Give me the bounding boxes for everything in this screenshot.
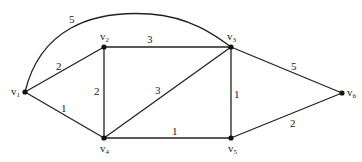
node-v2: [101, 44, 106, 49]
node-v4: [101, 135, 106, 140]
node-v3: [228, 44, 233, 49]
node-v5: [228, 135, 233, 140]
edge-v1-v3: [25, 14, 231, 92]
weight-v3-v5: 1: [234, 88, 240, 100]
weight-v1-v3: 5: [69, 13, 75, 25]
edge-v5-v6: [231, 93, 342, 138]
label-v3: v3: [227, 30, 237, 44]
weight-v1-v2: 2: [56, 60, 62, 72]
weight-v1-v4: 1: [61, 102, 67, 114]
weight-v5-v6: 2: [290, 117, 296, 129]
label-v2: v2: [100, 30, 110, 44]
edge-v1-v2: [25, 47, 104, 92]
node-v1: [22, 89, 27, 94]
weight-v4-v3: 3: [155, 84, 161, 96]
label-v5: v5: [228, 142, 238, 156]
label-v6: v6: [347, 86, 357, 100]
weight-v2-v3: 3: [147, 33, 153, 45]
weight-v2-v4: 2: [94, 85, 100, 97]
weight-v3-v6: 5: [291, 60, 297, 72]
weight-v4-v5: 1: [172, 125, 178, 137]
label-v4: v4: [100, 142, 110, 156]
node-v6: [339, 90, 344, 95]
label-v1: v1: [11, 85, 21, 99]
edge-v4-v3: [104, 47, 231, 138]
graph-diagram: 5 2 1 3 2 3 1 1 5 2 v1 v2 v3 v4 v5 v6: [0, 0, 362, 162]
edge-v3-v6: [231, 47, 342, 93]
edge-v1-v4: [25, 92, 104, 138]
